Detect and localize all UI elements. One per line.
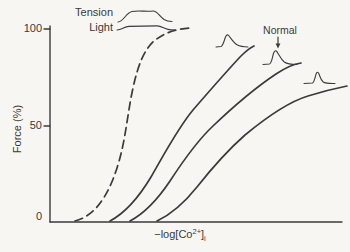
x-axis-label-subscript: i [204, 234, 206, 243]
solid-curve-2-normal [130, 63, 301, 221]
dashed-curve-light [75, 28, 190, 221]
y-axis-title: Force (%) [12, 105, 23, 153]
x-axis-label-prefix: −log[Co [154, 228, 192, 240]
y-tick-100: 100 [14, 23, 42, 34]
solid-curve-1 [110, 46, 254, 221]
solid-curve-3 [157, 86, 347, 221]
ca-transient-normal-icon [263, 51, 297, 65]
light-label: Light [60, 22, 113, 33]
x-axis-label: −log[Co2+]i [132, 229, 228, 240]
y-tick-0: 0 [14, 211, 42, 222]
chart-canvas [0, 0, 350, 252]
tension-pulse-icon [118, 11, 172, 22]
ca-transient-broad-icon [216, 35, 248, 47]
normal-arrow-head-icon [276, 44, 281, 49]
x-axis-label-superscript: 2+ [192, 227, 201, 236]
light-pulse-icon [117, 26, 175, 30]
normal-label: Normal [252, 25, 308, 36]
ca-transient-narrow-icon [304, 72, 335, 83]
force-cobalt-chart: 100 50 0 Force (%) Tension Light Normal … [0, 0, 350, 252]
tension-label: Tension [60, 7, 113, 18]
